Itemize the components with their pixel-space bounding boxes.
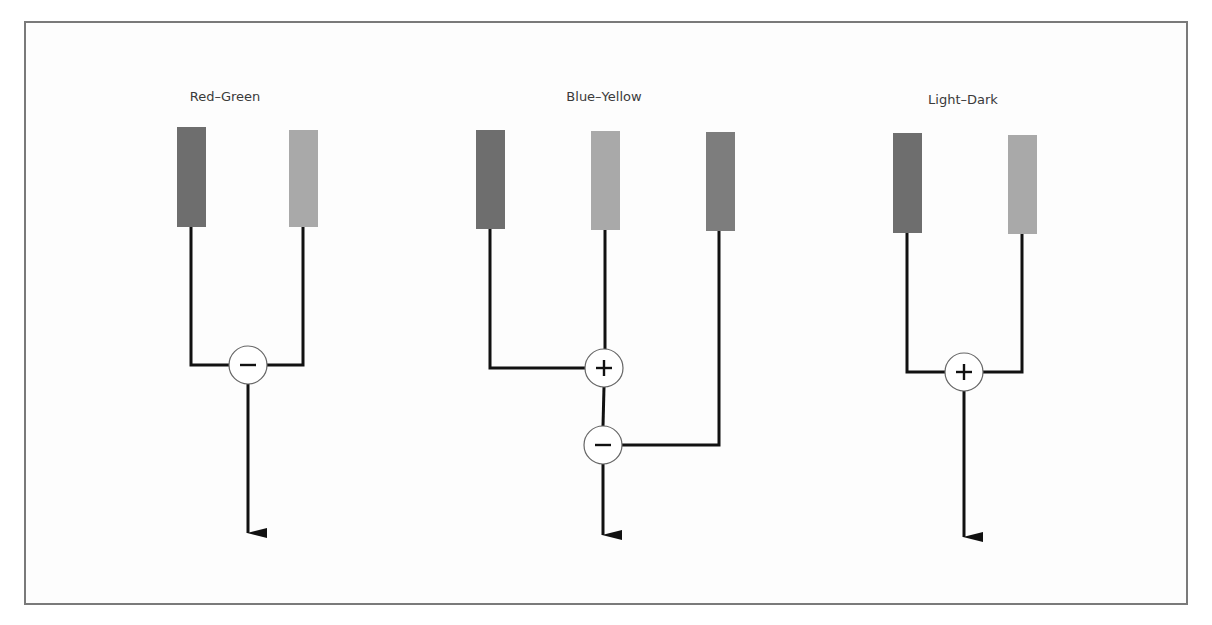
red-green-wire-1	[191, 227, 229, 365]
blue-yellow-wire-link	[603, 387, 604, 426]
red-green-minus-operator-icon	[229, 346, 267, 384]
wiring-svg	[0, 0, 1212, 625]
blue-yellow-wire-3	[622, 231, 719, 445]
operators	[229, 346, 983, 464]
red-green-wire-2	[267, 227, 303, 365]
light-dark-plus-operator-icon	[945, 353, 983, 391]
light-dark-wire-2	[983, 234, 1022, 372]
blue-yellow-wire-1	[490, 229, 585, 368]
opponent-channels-diagram: Red–Green Blue–Yellow Light–Dark	[0, 0, 1212, 625]
blue-yellow-minus-operator-icon	[584, 426, 622, 464]
light-dark-wire-1	[907, 233, 945, 372]
blue-yellow-plus-operator-icon	[585, 349, 623, 387]
